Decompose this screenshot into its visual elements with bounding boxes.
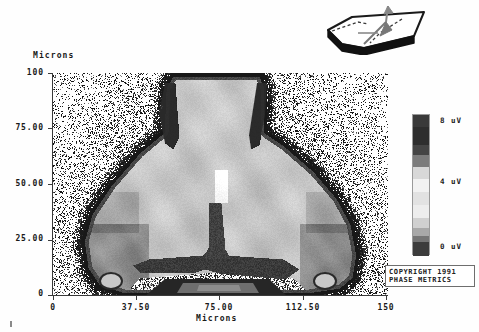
x-tick-mark-0 — [53, 296, 54, 300]
y-tick-label-0: 0 — [6, 289, 44, 298]
copyright-box: COPYRIGHT 1991 PHASE METRICS — [385, 265, 475, 287]
surface-map-plot-area[interactable] — [52, 73, 388, 296]
slider-orientation-diagram — [306, 0, 446, 55]
colorbar-scale — [412, 114, 430, 255]
x-tick-mark-37 — [136, 296, 137, 300]
x-tick-label-37: 37.50 — [114, 303, 158, 312]
colorbar-band-0 — [413, 115, 429, 127]
x-tick-label-0: 0 — [31, 303, 75, 312]
colorbar-band-7 — [413, 205, 429, 218]
surface-map-canvas — [53, 73, 388, 296]
copyright-line-2: PHASE METRICS — [389, 276, 471, 284]
colorbar-label-0uv: 0 uV — [440, 242, 462, 251]
colorbar-band-11 — [413, 242, 429, 256]
colorbar-band-8 — [413, 218, 429, 228]
colorbar-label-8uv: 8 uV — [440, 116, 462, 125]
x-tick-label-75: 75.00 — [197, 303, 241, 312]
x-axis-title: Microns — [196, 314, 237, 323]
x-tick-label-112: 112.50 — [281, 303, 325, 312]
x-tick-mark-150 — [386, 296, 387, 300]
profilometry-screenshot: Microns 100 75.00 50.00 25.00 0 0 37.50 … — [0, 0, 479, 332]
x-tick-mark-112 — [303, 296, 304, 300]
colorbar-band-4 — [413, 167, 429, 179]
y-tick-label-75: 75.00 — [6, 123, 44, 132]
colorbar-band-2 — [413, 145, 429, 155]
y-tick-label-50: 50.00 — [6, 179, 44, 188]
colorbar-band-3 — [413, 155, 429, 167]
colorbar-band-1 — [413, 127, 429, 145]
slider-3d-icon — [306, 0, 446, 55]
copyright-line-1: COPYRIGHT 1991 — [389, 268, 471, 276]
y-tick-label-100: 100 — [6, 68, 44, 77]
y-axis-title: Microns — [33, 51, 74, 60]
colorbar-band-6 — [413, 192, 429, 205]
x-tick-mark-75 — [219, 296, 220, 300]
x-tick-label-150: 150 — [364, 303, 408, 312]
y-tick-label-25: 25.00 — [6, 234, 44, 243]
colorbar-band-5 — [413, 179, 429, 192]
corner-artifact-mark — [10, 321, 12, 327]
colorbar-band-9 — [413, 228, 429, 236]
colorbar-label-4uv: 4 uV — [440, 177, 462, 186]
